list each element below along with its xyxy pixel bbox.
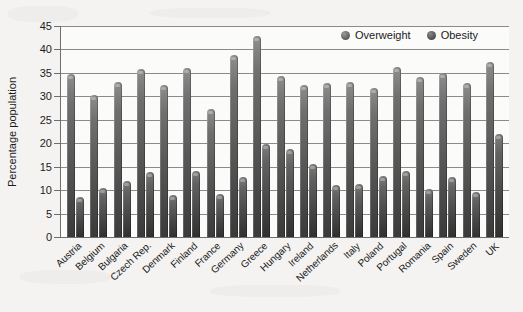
- y-axis-tick: [54, 190, 61, 191]
- bar-overweight: [90, 95, 98, 237]
- bar-obesity: [472, 192, 480, 237]
- bar-group: [297, 26, 320, 237]
- bar-group: [134, 26, 157, 237]
- legend-label: Obesity: [441, 29, 478, 41]
- y-axis-tick: [54, 167, 61, 168]
- x-axis-labels: AustriaBelgiumBulgariaCzech Rep.DenmarkF…: [60, 239, 508, 309]
- bar-overweight: [114, 82, 122, 237]
- x-axis-label-slot: Sweden: [459, 239, 482, 309]
- bar-highlight: [100, 190, 105, 193]
- chart-legend: OverweightObesity: [337, 27, 482, 43]
- bar-highlight: [301, 87, 306, 90]
- bar-obesity: [309, 164, 317, 237]
- bar-group: [157, 26, 180, 237]
- y-axis-tick-label: 20: [40, 138, 52, 149]
- y-axis-tick-label: 10: [40, 185, 52, 196]
- y-axis-tick-label: 45: [40, 21, 52, 32]
- bar-group: [366, 26, 389, 237]
- y-axis-title: Percentage population: [4, 26, 20, 237]
- y-axis-tick: [54, 237, 61, 238]
- bar-overweight: [183, 68, 191, 237]
- y-axis-tick-label: 0: [46, 232, 52, 243]
- legend-swatch-icon: [341, 31, 350, 40]
- y-axis-tick: [54, 26, 61, 27]
- bar-groups: [61, 26, 509, 237]
- bar-group: [250, 26, 273, 237]
- bar-highlight: [333, 187, 338, 190]
- bar-highlight: [254, 38, 259, 41]
- x-axis-label-slot: Czech Rep.: [133, 239, 156, 309]
- bar-highlight: [394, 69, 399, 72]
- bar-group: [390, 26, 413, 237]
- bar-group: [87, 26, 110, 237]
- bar-overweight: [346, 82, 354, 237]
- y-axis-tick: [54, 143, 61, 144]
- x-axis-label-slot: Finland: [179, 239, 202, 309]
- bar-obesity: [76, 197, 84, 237]
- bar-obesity: [355, 184, 363, 237]
- gridline: [61, 237, 509, 238]
- bar-group: [343, 26, 366, 237]
- bar-obesity: [448, 177, 456, 237]
- legend-swatch-icon: [427, 31, 436, 40]
- x-axis-label-slot: Hungary: [272, 239, 295, 309]
- bar-overweight: [137, 69, 145, 237]
- bar-highlight: [417, 79, 422, 82]
- bar-highlight: [231, 57, 236, 60]
- legend-item-overweight[interactable]: Overweight: [341, 29, 411, 41]
- bar-group: [273, 26, 296, 237]
- bar-highlight: [464, 85, 469, 88]
- bar-overweight: [300, 85, 308, 237]
- bar-obesity: [379, 176, 387, 237]
- bar-overweight: [207, 109, 215, 237]
- bar-obesity: [495, 134, 503, 237]
- bar-highlight: [310, 166, 315, 169]
- bar-highlight: [496, 136, 501, 139]
- bar-group: [64, 26, 87, 237]
- bar-highlight: [170, 197, 175, 200]
- legend-item-obesity[interactable]: Obesity: [427, 29, 478, 41]
- bar-overweight: [393, 67, 401, 237]
- y-axis-tick: [54, 49, 61, 50]
- bar-highlight: [371, 90, 376, 93]
- bar-highlight: [138, 71, 143, 74]
- bar-highlight: [380, 178, 385, 181]
- bar-highlight: [473, 194, 478, 197]
- x-axis-label-slot: UK: [482, 239, 505, 309]
- bar-group: [180, 26, 203, 237]
- bar-obesity: [99, 188, 107, 237]
- x-axis-tick-label: UK: [484, 241, 502, 258]
- bar-group: [111, 26, 134, 237]
- bar-highlight: [147, 174, 152, 177]
- paper-texture: [150, 8, 270, 18]
- x-axis-label-slot: Spain: [435, 239, 458, 309]
- bar-overweight: [253, 36, 261, 237]
- bar-overweight: [323, 83, 331, 237]
- x-axis-label-slot: Portugal: [389, 239, 412, 309]
- bar-group: [436, 26, 459, 237]
- x-axis-label-slot: Netherlands: [319, 239, 342, 309]
- bar-overweight: [160, 85, 168, 237]
- x-axis-label-slot: Poland: [365, 239, 388, 309]
- x-axis-label-slot: Italy: [342, 239, 365, 309]
- bar-obesity: [425, 189, 433, 237]
- x-axis-label-slot: Germany: [226, 239, 249, 309]
- y-axis-tick-label: 35: [40, 67, 52, 78]
- bar-highlight: [91, 97, 96, 100]
- bar-overweight: [486, 62, 494, 237]
- bar-overweight: [370, 88, 378, 237]
- bar-overweight: [277, 76, 285, 237]
- bar-obesity: [216, 194, 224, 237]
- bar-highlight: [449, 179, 454, 182]
- bar-chart: Percentage population 051015202530354045…: [0, 0, 523, 312]
- bar-highlight: [356, 186, 361, 189]
- bar-group: [204, 26, 227, 237]
- bar-highlight: [487, 64, 492, 67]
- x-axis-label-slot: Romania: [412, 239, 435, 309]
- legend-label: Overweight: [355, 29, 411, 41]
- y-axis-tick-label: 25: [40, 114, 52, 125]
- bar-overweight: [67, 74, 75, 237]
- bar-highlight: [68, 76, 73, 79]
- bar-overweight: [416, 77, 424, 237]
- bar-group: [320, 26, 343, 237]
